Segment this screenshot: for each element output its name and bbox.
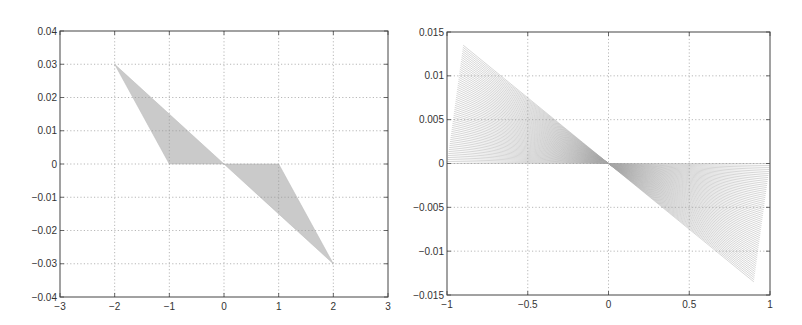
y-tick-label: −0.015 xyxy=(413,290,444,301)
y-tick-label: −0.03 xyxy=(32,258,58,269)
y-tick-label: −0.01 xyxy=(32,192,58,203)
y-tick-label: 0.015 xyxy=(419,27,444,38)
y-tick-label: 0.01 xyxy=(425,70,445,81)
x-tick-label: 3 xyxy=(385,301,391,312)
y-tick-label: −0.04 xyxy=(32,292,58,303)
y-tick-label: 0.01 xyxy=(38,125,58,136)
y-tick-label: 0 xyxy=(438,158,444,169)
x-tick-label: −2 xyxy=(109,301,121,312)
y-tick-label: 0.03 xyxy=(38,59,58,70)
x-tick-label: 2 xyxy=(331,301,337,312)
y-tick-label: 0.02 xyxy=(38,92,58,103)
x-tick-label: 0 xyxy=(606,299,612,310)
left-plot: −3−2−10123−0.04−0.03−0.02−0.0100.010.020… xyxy=(32,26,392,313)
y-tick-label: −0.02 xyxy=(32,225,58,236)
x-tick-label: −0.5 xyxy=(518,299,538,310)
x-tick-label: −3 xyxy=(54,301,66,312)
x-tick-label: 0.5 xyxy=(682,299,696,310)
y-tick-label: 0 xyxy=(51,159,57,170)
y-tick-label: −0.01 xyxy=(419,246,445,257)
x-tick-label: 0 xyxy=(221,301,227,312)
y-tick-label: 0.04 xyxy=(38,26,58,37)
x-tick-label: −1 xyxy=(164,301,176,312)
x-tick-label: −1 xyxy=(441,299,453,310)
y-tick-label: −0.005 xyxy=(413,202,444,213)
right-plot: −1−0.500.51−0.015−0.01−0.00500.0050.010.… xyxy=(413,27,773,311)
y-tick-label: 0.005 xyxy=(419,114,444,125)
figure: −3−2−10123−0.04−0.03−0.02−0.0100.010.020… xyxy=(0,0,802,325)
x-tick-label: 1 xyxy=(276,301,282,312)
x-tick-label: 1 xyxy=(767,299,773,310)
